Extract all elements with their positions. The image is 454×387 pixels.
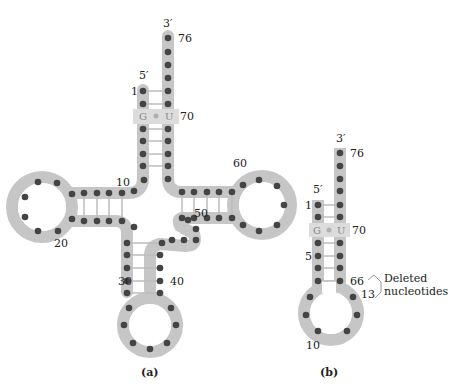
caption-a: (a)	[141, 366, 159, 379]
label-3prime-a: 3′	[163, 17, 173, 30]
label-30-a: 30	[118, 275, 132, 288]
wobble-g-b: G	[313, 225, 321, 236]
label-40-a: 40	[170, 275, 184, 288]
label-70-b: 70	[352, 224, 366, 237]
label-66-b: 66	[350, 275, 364, 288]
label-76-a: 76	[178, 32, 192, 45]
label-50-a: 50	[194, 207, 208, 220]
label-60-a: 60	[233, 157, 247, 170]
annotation-line2: nucleotides	[384, 285, 448, 298]
label-3prime-b: 3′	[336, 132, 346, 145]
label-13-b: 13	[361, 288, 375, 301]
label-5prime-b: 5′	[313, 183, 323, 196]
label-70-a: 70	[180, 110, 194, 123]
label-1-b: 1	[305, 199, 312, 212]
label-20-a: 20	[54, 237, 68, 250]
annotation-line1: Deleted	[384, 272, 427, 285]
label-76-b: 76	[350, 147, 364, 160]
label-10-a: 10	[116, 176, 130, 189]
wobble-g-a: G	[139, 111, 147, 122]
trna-diagram: G U	[0, 0, 454, 387]
caption-b: (b)	[320, 366, 338, 379]
wobble-u-a: U	[165, 111, 173, 122]
panel-a: G U	[12, 17, 291, 379]
label-5prime-a: 5′	[139, 69, 149, 82]
panel-b: G U 3′ 76 5′ 1 70 5 66 13 10 Deleted nuc…	[303, 132, 449, 379]
label-5-b: 5	[305, 250, 312, 263]
label-1-a: 1	[131, 85, 138, 98]
label-10-b: 10	[306, 339, 320, 352]
wobble-u-b: U	[337, 225, 345, 236]
